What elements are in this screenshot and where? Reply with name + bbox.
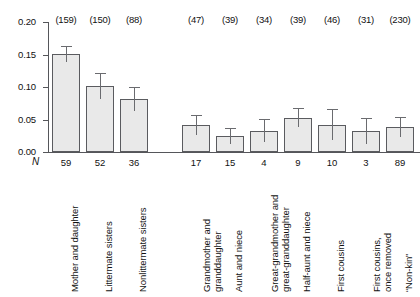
category-label-line: granddaughter [213,219,224,292]
error-bar [264,119,265,142]
error-bar-cap [395,117,406,118]
y-axis-tick [43,55,48,56]
bar [52,54,80,152]
category-label: Half-aunt and niece [302,212,313,293]
y-axis-tick-label: 0.05 [4,114,36,125]
error-bar-cap [61,46,72,47]
n-value: 3 [348,157,384,168]
y-axis-tick [43,87,48,88]
y-axis-tick [43,120,48,121]
n-value: 10 [314,157,350,168]
error-bar-cap [129,87,140,88]
category-label-line: Grandmother and [202,219,213,292]
bar-count-label: (230) [381,14,419,25]
error-bar-cap [259,119,270,120]
category-label-line: great-granddaughter [281,195,292,292]
y-axis-tick-label: 0.20 [4,16,36,27]
n-value: 4 [246,157,282,168]
category-label-line: Littermate sisters [104,221,115,292]
bar-count-label: (47) [177,14,215,25]
error-bar [196,115,197,135]
error-bar-cap [327,109,338,110]
n-value: 59 [48,157,84,168]
error-bar-cap [225,128,236,129]
n-value: 9 [280,157,316,168]
y-axis-line [48,22,49,153]
error-bar-cap [95,73,106,74]
n-value: 15 [212,157,248,168]
category-label: Great-grandmother andgreat-granddaughter [270,195,291,292]
error-bar [66,46,67,62]
n-row-symbol: N [32,156,39,167]
category-label-line: First cousins, [372,233,383,292]
category-label-line: Great-grandmother and [270,195,281,292]
error-bar [100,73,101,100]
category-label: First cousins [336,240,347,292]
category-label: Grandmother andgranddaughter [202,219,223,292]
error-bar [298,108,299,128]
n-value: 52 [82,157,118,168]
error-bar [366,118,367,144]
category-label: Nonlittermate sisters [138,208,149,292]
error-bar-cap [191,115,202,116]
bar-count-label: (159) [47,14,85,25]
category-label-line: “Non-kin” [404,254,415,292]
category-label: “Non-kin” [404,254,415,292]
category-label-line: Half-aunt and niece [302,212,313,293]
n-value: 17 [178,157,214,168]
error-bar [332,109,333,140]
n-value: 89 [382,157,418,168]
bar-count-label: (150) [81,14,119,25]
category-label: Mother and daughter [70,206,81,292]
y-axis-tick-label: 0.15 [4,49,36,60]
category-label-line: First cousins [336,240,347,292]
bar-count-label: (34) [245,14,283,25]
error-bar [400,117,401,137]
category-label-line: Nonlittermate sisters [138,208,149,292]
error-bar [230,128,231,144]
y-axis-tick-label: 0.10 [4,81,36,92]
category-label: First cousins,once removed [372,233,393,292]
bar-count-label: (88) [115,14,153,25]
error-bar-cap [293,108,304,109]
category-label-line: Mother and daughter [70,206,81,292]
category-label-line: once removed [383,233,394,292]
error-bar [134,87,135,111]
n-value: 36 [116,157,152,168]
bar-count-label: (31) [347,14,385,25]
category-label-line: Aunt and niece [234,230,245,292]
error-bar-cap [361,118,372,119]
x-axis-line [48,152,420,153]
bar-count-label: (39) [211,14,249,25]
category-label: Littermate sisters [104,221,115,292]
bar-count-label: (39) [279,14,317,25]
category-label: Aunt and niece [234,230,245,292]
bar-count-label: (46) [313,14,351,25]
